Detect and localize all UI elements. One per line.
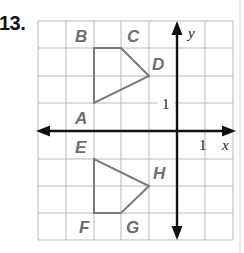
vertex-label-a: A: [74, 109, 87, 128]
y-axis-up-arrow-icon: [172, 21, 183, 35]
vertex-label-d: D: [152, 55, 164, 74]
x-tick-label: 1: [199, 137, 207, 153]
vertex-label-f: F: [79, 218, 90, 237]
x-axis-right-arrow-icon: [222, 126, 236, 137]
vertex-label-b: B: [75, 27, 87, 46]
y-axis-label: y: [186, 25, 195, 41]
vertex-label-e: E: [75, 138, 87, 157]
vertex-label-g: G: [126, 218, 139, 237]
vertex-label-c: C: [127, 27, 140, 46]
coordinate-graph: y x 1 1 B C D A E H F G: [0, 0, 244, 253]
x-axis-label: x: [221, 137, 229, 153]
y-tick-label: 1: [162, 96, 170, 112]
vertex-label-h: H: [153, 164, 166, 183]
y-axis-down-arrow-icon: [172, 226, 183, 240]
